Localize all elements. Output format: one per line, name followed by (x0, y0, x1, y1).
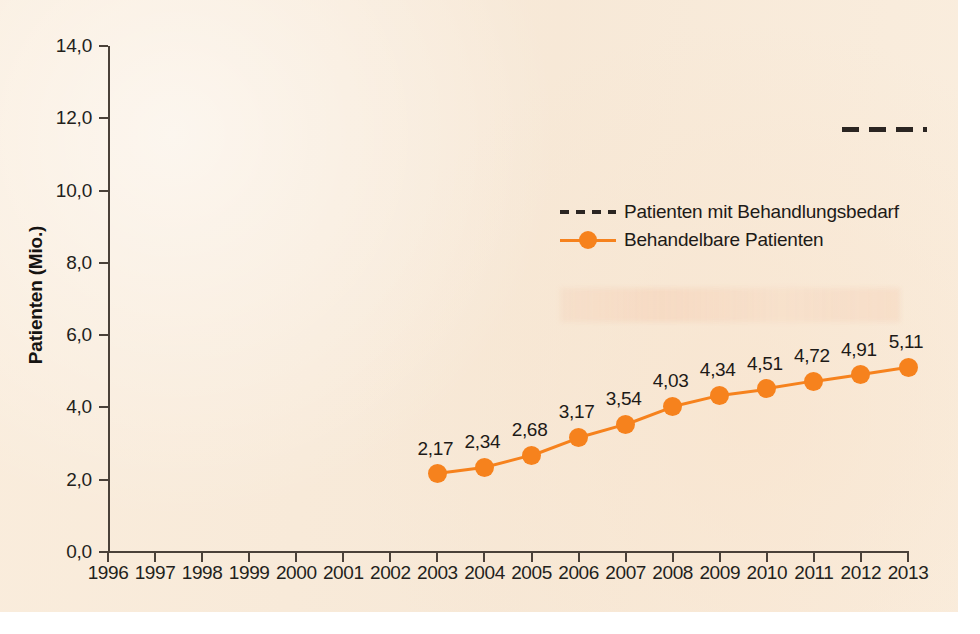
y-tick-label-wrap: 2,0 (28, 469, 92, 489)
x-tick-mark (625, 553, 627, 562)
x-tick-label: 2013 (878, 562, 938, 584)
dashed-projection-line (842, 127, 927, 132)
y-tick-label-wrap: 4,0 (28, 396, 92, 416)
plot-area: Patienten (Mio.) 0,02,04,06,08,010,012,0… (0, 0, 958, 612)
x-tick-mark (248, 553, 250, 562)
y-axis-line (108, 46, 110, 553)
x-tick-mark (672, 553, 674, 562)
legend-dashed-line-icon (560, 210, 616, 214)
y-tick-label: 6,0 (28, 324, 92, 346)
legend-item: Patienten mit Behandlungsbedarf (560, 198, 899, 226)
x-tick-mark (436, 553, 438, 562)
y-tick-label-wrap: 6,0 (28, 324, 92, 344)
x-tick-mark (483, 553, 485, 562)
y-tick-label-wrap: 0,0 (28, 541, 92, 561)
y-tick-label: 8,0 (28, 252, 92, 274)
y-tick-label: 14,0 (28, 35, 92, 57)
x-tick-mark (107, 553, 109, 562)
data-point-marker (569, 428, 588, 447)
legend-label: Behandelbare Patienten (624, 229, 824, 251)
data-point-marker (428, 464, 447, 483)
data-point-marker (757, 379, 776, 398)
y-tick-mark (99, 117, 108, 119)
x-tick-mark (342, 553, 344, 562)
y-tick-mark (99, 262, 108, 264)
legend: Patienten mit BehandlungsbedarfBehandelb… (560, 198, 899, 254)
y-tick-label: 0,0 (28, 541, 92, 563)
y-tick-mark (99, 334, 108, 336)
y-tick-mark (99, 406, 108, 408)
x-tick-mark (578, 553, 580, 562)
y-tick-mark (99, 190, 108, 192)
y-tick-mark (99, 45, 108, 47)
x-tick-mark (295, 553, 297, 562)
legend-label: Patienten mit Behandlungsbedarf (624, 201, 899, 223)
data-point-marker (899, 358, 918, 377)
data-point-label: 5,11 (871, 331, 941, 353)
x-tick-mark (766, 553, 768, 562)
y-tick-mark (99, 479, 108, 481)
data-point-marker (522, 446, 541, 465)
x-axis-line (108, 551, 909, 553)
x-tick-mark (860, 553, 862, 562)
y-tick-label-wrap: 10,0 (28, 180, 92, 200)
y-tick-label: 4,0 (28, 396, 92, 418)
y-tick-label-wrap: 14,0 (28, 35, 92, 55)
x-tick-mark (389, 553, 391, 562)
legend-marker-icon (579, 231, 597, 249)
x-tick-mark (154, 553, 156, 562)
data-point-marker (851, 365, 870, 384)
data-point-marker (475, 458, 494, 477)
x-tick-mark (813, 553, 815, 562)
y-tick-label-wrap: 12,0 (28, 107, 92, 127)
x-tick-mark (201, 553, 203, 562)
x-tick-mark (719, 553, 721, 562)
x-tick-mark (531, 553, 533, 562)
legend-key-line-marker (560, 230, 616, 250)
legend-key-dashed (560, 202, 616, 222)
data-point-marker (804, 372, 823, 391)
y-tick-label: 10,0 (28, 180, 92, 202)
legend-item: Behandelbare Patienten (560, 226, 899, 254)
y-tick-label-wrap: 8,0 (28, 252, 92, 272)
data-point-marker (663, 397, 682, 416)
y-tick-label: 12,0 (28, 107, 92, 129)
data-point-marker (616, 415, 635, 434)
x-tick-mark (907, 553, 909, 562)
y-axis-title: Patienten (Mio.) (25, 185, 47, 405)
chart-figure: Patienten (Mio.) 0,02,04,06,08,010,012,0… (0, 0, 958, 612)
data-point-marker (710, 386, 729, 405)
y-tick-label: 2,0 (28, 469, 92, 491)
